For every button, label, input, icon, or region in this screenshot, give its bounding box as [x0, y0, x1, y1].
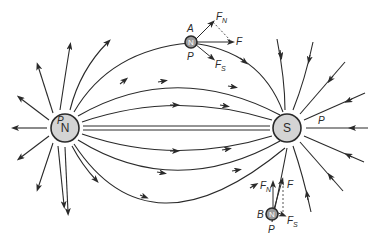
field-line [158, 81, 164, 82]
field-line [78, 88, 280, 116]
field-line [82, 105, 272, 122]
point-b: N B P FN F FS [257, 179, 298, 235]
field-line [74, 43, 190, 112]
point-b-p-label: P [268, 224, 275, 235]
point-a-f-label: F [236, 36, 243, 47]
north-pole: N [51, 114, 79, 142]
point-b-pole-label: N [269, 210, 275, 219]
field-line [228, 86, 234, 87]
field-line [72, 146, 96, 180]
field-line [304, 136, 364, 162]
field-line [330, 176, 333, 180]
field-line [82, 134, 272, 151]
field-line [277, 39, 285, 110]
field-line [300, 142, 343, 191]
right-p-label: P [318, 115, 325, 126]
point-a-p-label: P [187, 51, 194, 62]
field-diagram: N S P P N A P FN F FS N B P FN F FS [0, 0, 383, 242]
field-line [20, 136, 49, 158]
field-line [58, 146, 64, 205]
field-line [232, 170, 238, 171]
field-line [304, 93, 365, 120]
field-line [74, 144, 285, 203]
point-a-pole-label: N [188, 38, 194, 47]
point-a-fs-label: FS [215, 59, 226, 72]
point-b-fn-label: FN [260, 180, 272, 193]
point-b-label: B [257, 209, 264, 220]
field-line [293, 146, 311, 212]
field-line [60, 46, 70, 110]
field-line [65, 147, 68, 212]
field-line [78, 140, 280, 170]
south-pole: S [273, 114, 301, 142]
point-a-label: A [186, 23, 194, 34]
pole-bar [83, 126, 270, 130]
field-line [140, 195, 145, 197]
point-a-fn-label: FN [216, 11, 228, 24]
point-a: N A P FN F FS [185, 11, 243, 72]
point-b-f-label: F [287, 179, 294, 190]
field-line [190, 43, 283, 112]
field-line [307, 194, 308, 200]
field-line [70, 42, 108, 110]
field-line [309, 55, 310, 60]
field-line [293, 42, 313, 110]
field-line [220, 105, 226, 106]
field-line [250, 185, 255, 188]
point-b-fs-label: FS [287, 215, 298, 228]
field-line [20, 98, 49, 120]
field-line [38, 143, 53, 188]
left-p-label: P [57, 115, 64, 126]
field-line [120, 80, 125, 84]
field-line [157, 172, 163, 173]
upper-field-lines [74, 43, 283, 122]
lower-field-lines [74, 134, 285, 203]
field-line [38, 66, 53, 113]
field-line [222, 149, 228, 150]
field-line [240, 58, 245, 62]
south-pole-label: S [283, 121, 291, 135]
